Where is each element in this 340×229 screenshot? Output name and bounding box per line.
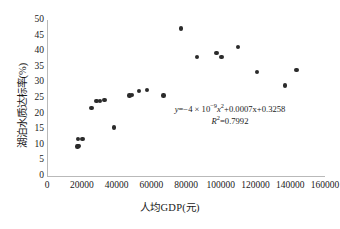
data-point [283, 83, 287, 87]
x-tick-label: 100000 [207, 181, 236, 191]
equation-tail: +0.0007x+0.3258 [224, 104, 285, 114]
x-axis-ticks: 0200004000060000800001000001200001400001… [0, 181, 340, 193]
x-tick-label: 60000 [139, 181, 163, 191]
x-tick-label: 140000 [276, 181, 305, 191]
trendline-annotation: y=−4 × 10−9x2+0.0007x+0.3258 R2=0.7992 [150, 104, 310, 127]
y-axis-title-host: 湖泊水质达标率(%) [8, 20, 22, 176]
equation-exponent: −9 [210, 102, 217, 109]
y-axis-title: 湖泊水质达标率(%) [14, 41, 29, 171]
plot-area [47, 20, 325, 176]
data-point [76, 144, 80, 148]
y-tick-label: 15 [35, 124, 45, 134]
x-tick-label: 80000 [174, 181, 198, 191]
data-point [112, 125, 116, 129]
y-tick-label: 30 [35, 77, 45, 87]
y-tick-label: 0 [39, 171, 44, 181]
data-point [161, 93, 165, 97]
x-tick-label: 0 [45, 181, 50, 191]
data-point [294, 68, 298, 72]
data-point [89, 106, 93, 110]
y-tick-label: 35 [35, 62, 45, 72]
data-point [179, 26, 183, 30]
x-axis-line [47, 176, 325, 177]
r-squared-text: R2=0.7992 [150, 116, 310, 128]
equation-text: y=−4 × 10−9x2+0.0007x+0.3258 [150, 104, 310, 116]
data-point [214, 51, 218, 55]
y-tick-label: 40 [35, 46, 45, 56]
y-tick-label: 45 [35, 31, 45, 41]
r2-value: =0.7992 [220, 116, 248, 126]
x-tick-label: 20000 [70, 181, 94, 191]
y-tick-label: 50 [35, 15, 45, 25]
x-tick-label: 120000 [241, 181, 270, 191]
x-tick-label: 160000 [311, 181, 340, 191]
y-tick-label: 10 [35, 140, 45, 150]
data-point [102, 98, 106, 102]
trendline [47, 20, 325, 176]
y-tick-label: 5 [39, 155, 44, 165]
y-tick-label: 20 [35, 109, 45, 119]
x-tick-label: 40000 [105, 181, 129, 191]
y-tick-label: 25 [35, 93, 45, 103]
scatter-chart: 05101520253035404550 0200004000060000800… [0, 0, 340, 229]
x-axis-title: 人均GDP(元) [0, 199, 340, 214]
